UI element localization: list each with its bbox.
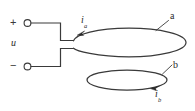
loop-a-coil (74, 28, 187, 57)
current-label-ia: ia (81, 15, 87, 28)
current-subscript-b: b (158, 96, 161, 103)
wire-negative-lead (31, 49, 73, 67)
negative-terminal-node (24, 63, 31, 70)
positive-terminal-sign: + (10, 17, 16, 28)
leader-line-a (156, 21, 169, 31)
positive-terminal-node (24, 20, 31, 27)
loop-b-coil (87, 70, 167, 90)
circuit-drawing-canvas (0, 0, 195, 111)
loop-b-label: b (173, 60, 178, 70)
current-arrow-icon-a (77, 31, 84, 36)
current-subscript-a: a (84, 22, 87, 29)
wire-positive-lead (31, 23, 73, 41)
source-voltage-label: u (11, 38, 16, 48)
current-label-ib: ib (155, 89, 161, 102)
loop-a-label: a (170, 11, 174, 21)
negative-terminal-sign: − (10, 60, 16, 71)
leader-line-b (163, 65, 173, 74)
circuit-figure: + − u ia ib a b (0, 0, 195, 111)
